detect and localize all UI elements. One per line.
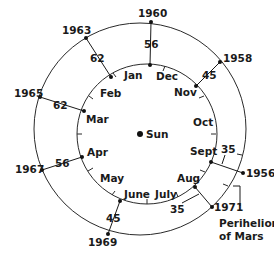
distance-label-1958: 45 xyxy=(202,69,217,81)
year-label-1956: 1956 xyxy=(246,167,274,179)
distance-label-1956: 35 xyxy=(221,143,236,155)
month-label-feb: Feb xyxy=(100,87,122,99)
distance-label-1969: 45 xyxy=(106,212,121,224)
perihelion-label-line2: of Mars xyxy=(219,230,263,242)
perihelion-label-line1: Perihelion xyxy=(219,217,274,229)
year-label-1963: 1963 xyxy=(62,24,91,36)
sun-icon xyxy=(137,131,143,137)
month-label-dec: Dec xyxy=(156,70,178,82)
mars-opposition-diagram: Sun xyxy=(0,0,274,255)
month-label-oct: Oct xyxy=(193,116,213,128)
sun-label: Sun xyxy=(146,128,169,140)
month-label-mar: Mar xyxy=(86,113,110,125)
month-label-nov: Nov xyxy=(174,86,197,98)
month-label-sept: Sept xyxy=(190,145,217,157)
distance-label-1960: 56 xyxy=(144,38,159,50)
month-label-july: July xyxy=(154,188,177,200)
year-label-1958: 1958 xyxy=(223,52,252,64)
month-label-may: May xyxy=(100,172,124,184)
year-label-1971: 1971 xyxy=(214,201,243,213)
year-label-1960: 1960 xyxy=(138,7,167,19)
month-label-apr: Apr xyxy=(87,146,109,158)
month-label-june: June xyxy=(123,188,150,200)
distance-label-1963: 62 xyxy=(90,52,105,64)
year-label-1969: 1969 xyxy=(88,236,117,248)
distance-label-1971: 35 xyxy=(170,203,185,215)
year-label-1965: 1965 xyxy=(14,87,43,99)
distance-label-1967: 56 xyxy=(55,157,70,169)
month-label-aug: Aug xyxy=(177,172,200,184)
year-label-1967: 1967 xyxy=(15,163,44,175)
month-label-jan: Jan xyxy=(123,69,142,81)
distance-label-1965: 62 xyxy=(53,99,68,111)
